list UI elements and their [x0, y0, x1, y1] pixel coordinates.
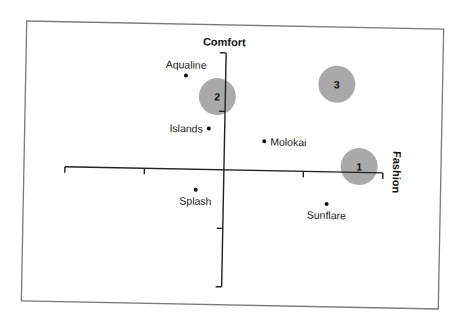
perceptual-map-chart: 123 Comfort Fashion AqualineIslandsMolok… — [0, 0, 465, 322]
brand-label: Splash — [179, 194, 211, 207]
segment-circle-1: 1 — [340, 148, 378, 186]
brand-dot — [262, 139, 266, 143]
brand-label: Islands — [169, 122, 203, 135]
brand-point-splash: Splash — [179, 187, 212, 207]
segment-circle-3: 3 — [318, 65, 356, 103]
brand-dot — [194, 188, 198, 192]
brand-label: Sunflare — [307, 209, 346, 222]
figure-frame — [21, 21, 443, 309]
brand-label: Aqualine — [166, 58, 207, 71]
brand-dot — [207, 127, 211, 131]
brand-label: Molokai — [270, 135, 306, 148]
brand-point-aqualine: Aqualine — [165, 58, 206, 78]
segment-label: 1 — [356, 161, 362, 173]
brand-point-molokai: Molokai — [262, 135, 306, 148]
perceptual-map-figure: 123 Comfort Fashion AqualineIslandsMolok… — [0, 0, 465, 322]
brand-dot — [184, 73, 188, 77]
segment-label: 3 — [334, 78, 340, 90]
brand-point-islands: Islands — [169, 122, 211, 135]
brand-dot — [325, 202, 329, 206]
x-axis-title: Fashion — [390, 151, 403, 194]
y-axis-title: Comfort — [203, 35, 246, 48]
segment-label: 2 — [214, 91, 220, 103]
brand-point-sunflare: Sunflare — [307, 202, 347, 222]
segment-circle-2: 2 — [199, 78, 237, 116]
